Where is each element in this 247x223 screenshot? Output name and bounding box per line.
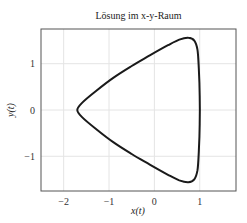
x-tick-label: 1	[197, 196, 202, 207]
x-tick-label: 0	[152, 196, 157, 207]
y-tick-label: 0	[30, 105, 35, 116]
x-tick-label: −2	[58, 196, 69, 207]
x-tick-label: −1	[104, 196, 115, 207]
chart-plot: −2−101−101 x(t) y(t)	[0, 0, 247, 223]
tick-labels: −2−101−101	[24, 58, 202, 207]
x-axis-label: x(t)	[130, 205, 146, 217]
y-axis-label: y(t)	[5, 102, 17, 118]
grid-lines	[41, 29, 236, 191]
y-tick-label: −1	[24, 151, 35, 162]
y-tick-label: 1	[30, 58, 35, 69]
